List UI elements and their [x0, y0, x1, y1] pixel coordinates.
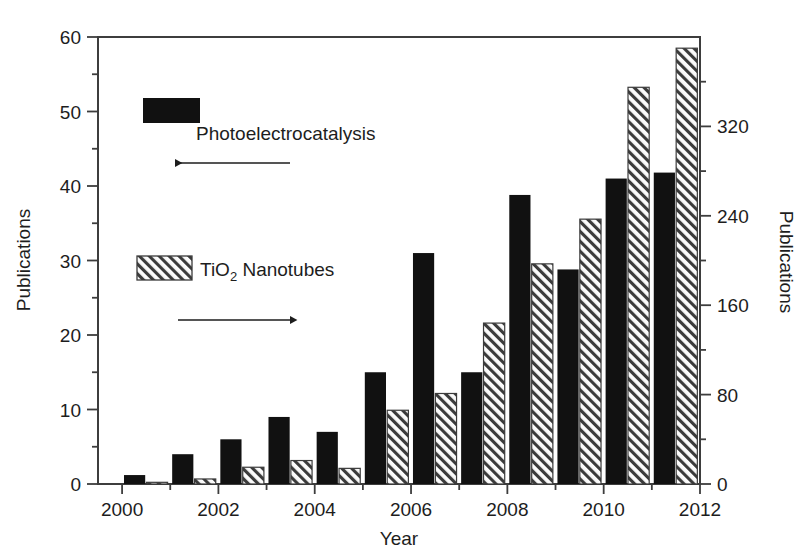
axis-tick-label: 2010	[583, 499, 625, 520]
bar-tio2-nanotubes	[532, 264, 553, 484]
y-axis-right-title: Publications	[776, 211, 797, 313]
x-axis-title: Year	[380, 528, 419, 549]
axis-tick-label: 50	[60, 102, 81, 123]
bar-photoelectrocatalysis	[220, 439, 241, 484]
legend-swatch-hatched	[137, 256, 192, 280]
y-axis-left-title: Publications	[13, 209, 34, 311]
axis-tick-label: 2008	[486, 499, 528, 520]
axis-tick-label: 160	[717, 295, 749, 316]
bar-tio2-nanotubes	[676, 48, 697, 484]
bar-tio2-nanotubes	[435, 393, 456, 484]
axis-tick-label: 2006	[390, 499, 432, 520]
legend-swatch-solid	[143, 98, 200, 123]
axis-tick-label: 0	[717, 474, 728, 495]
bar-tio2-nanotubes	[146, 482, 167, 484]
axis-tick-label: 2000	[101, 499, 143, 520]
axis-tick-label: 320	[717, 116, 749, 137]
axis-tick-label: 30	[60, 251, 81, 272]
bar-tio2-nanotubes	[580, 219, 601, 484]
bar-photoelectrocatalysis	[461, 372, 482, 484]
legend-tio2-suffix: Nanotubes	[237, 259, 334, 280]
publications-bar-chart: 0102030405060080160240320200020022004200…	[0, 0, 799, 560]
bar-tio2-nanotubes	[195, 479, 216, 484]
bar-photoelectrocatalysis	[268, 417, 289, 484]
axis-tick-label: 10	[60, 400, 81, 421]
bar-photoelectrocatalysis	[365, 372, 386, 484]
axis-tick-label: 20	[60, 325, 81, 346]
axis-tick-label: 0	[70, 474, 81, 495]
legend-label-photoelectrocatalysis: Photoelectrocatalysis	[196, 123, 376, 144]
chart-canvas: 0102030405060080160240320200020022004200…	[0, 0, 799, 560]
bar-photoelectrocatalysis	[413, 253, 434, 484]
bar-tio2-nanotubes	[628, 87, 649, 484]
bar-photoelectrocatalysis	[317, 432, 338, 484]
bar-photoelectrocatalysis	[606, 179, 627, 484]
bar-photoelectrocatalysis	[654, 173, 675, 484]
bar-photoelectrocatalysis	[172, 454, 193, 484]
legend-tio2-subscript: 2	[230, 269, 237, 284]
axis-tick-label: 2002	[197, 499, 239, 520]
bar-tio2-nanotubes	[484, 323, 505, 484]
bar-tio2-nanotubes	[291, 461, 312, 484]
bar-tio2-nanotubes	[339, 468, 360, 484]
bar-photoelectrocatalysis	[509, 195, 530, 484]
legend-tio2-prefix: TiO	[200, 259, 230, 280]
bar-tio2-nanotubes	[243, 467, 264, 484]
axis-tick-label: 60	[60, 27, 81, 48]
axis-tick-label: 80	[717, 385, 738, 406]
bar-photoelectrocatalysis	[557, 269, 578, 484]
axis-tick-label: 240	[717, 206, 749, 227]
axis-tick-label: 40	[60, 176, 81, 197]
axis-tick-label: 2012	[679, 499, 721, 520]
bar-photoelectrocatalysis	[124, 475, 145, 484]
axis-tick-label: 2004	[294, 499, 337, 520]
bar-tio2-nanotubes	[387, 410, 408, 484]
